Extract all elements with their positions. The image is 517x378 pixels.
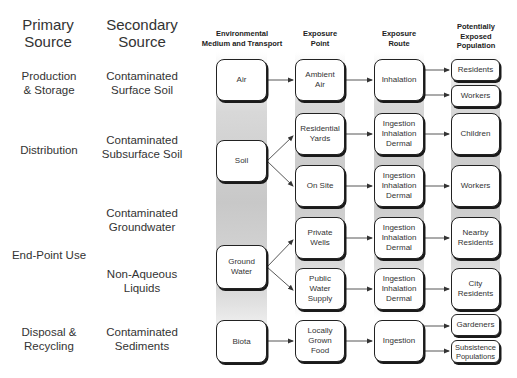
node-medium-ground-water: Ground Water bbox=[216, 245, 267, 289]
node-label: City Residents bbox=[458, 279, 494, 299]
node-label: Ingestion Inhalation Dermal bbox=[382, 223, 417, 253]
node-label: Biota bbox=[232, 337, 250, 347]
node-label: Ingestion Inhalation Dermal bbox=[382, 274, 417, 304]
node-population-gardeners: Gardeners bbox=[451, 314, 500, 336]
node-label: Workers bbox=[461, 91, 491, 101]
node-population-workers-site: Workers bbox=[451, 165, 500, 207]
node-label: Ambient Air bbox=[305, 70, 334, 90]
node-label: Air bbox=[237, 75, 247, 85]
node-label: Workers bbox=[461, 181, 491, 191]
node-population-nearby-residents: Nearby Residents bbox=[451, 217, 500, 259]
node-point-locally-grown-food: Locally Grown Food bbox=[295, 320, 345, 362]
node-label: Locally Grown Food bbox=[298, 326, 342, 356]
node-label: Inhalation bbox=[382, 75, 417, 85]
node-medium-soil: Soil bbox=[216, 140, 267, 182]
node-label: Residential Yards bbox=[300, 124, 340, 144]
node-route-ingestion: Ingestion bbox=[374, 320, 424, 362]
node-label: Private Wells bbox=[308, 228, 333, 248]
node-label: Public Water Supply bbox=[298, 274, 342, 304]
node-label: Ingestion bbox=[383, 336, 415, 346]
node-point-private-wells: Private Wells bbox=[295, 217, 345, 259]
node-medium-air: Air bbox=[216, 59, 267, 101]
node-population-city-residents: City Residents bbox=[451, 268, 500, 310]
node-label: Subsistence Populations bbox=[455, 343, 496, 361]
node-label: Children bbox=[461, 129, 491, 139]
node-label: Ingestion Inhalation Dermal bbox=[382, 171, 417, 201]
node-population-workers-air: Workers bbox=[451, 85, 500, 107]
node-label: Gardeners bbox=[457, 320, 495, 330]
node-medium-biota: Biota bbox=[216, 320, 267, 363]
node-label: On Site bbox=[307, 181, 334, 191]
node-label: Ingestion Inhalation Dermal bbox=[382, 119, 417, 149]
node-label: Nearby Residents bbox=[458, 228, 494, 248]
node-point-public-water-supply: Public Water Supply bbox=[295, 268, 345, 310]
node-label: Soil bbox=[235, 156, 248, 166]
node-population-children: Children bbox=[451, 113, 500, 155]
node-route-multi-4: Ingestion Inhalation Dermal bbox=[374, 268, 424, 310]
node-route-multi-1: Ingestion Inhalation Dermal bbox=[374, 113, 424, 155]
node-route-inhalation: Inhalation bbox=[374, 59, 424, 101]
node-route-multi-2: Ingestion Inhalation Dermal bbox=[374, 165, 424, 207]
node-label: Residents bbox=[458, 65, 494, 75]
node-route-multi-3: Ingestion Inhalation Dermal bbox=[374, 217, 424, 259]
node-label: Ground Water bbox=[228, 257, 255, 277]
node-population-subsistence: Subsistence Populations bbox=[451, 340, 500, 363]
node-point-residential-yards: Residential Yards bbox=[295, 113, 345, 155]
node-point-ambient-air: Ambient Air bbox=[295, 59, 345, 101]
node-point-on-site: On Site bbox=[295, 165, 345, 207]
node-population-residents: Residents bbox=[451, 59, 500, 81]
